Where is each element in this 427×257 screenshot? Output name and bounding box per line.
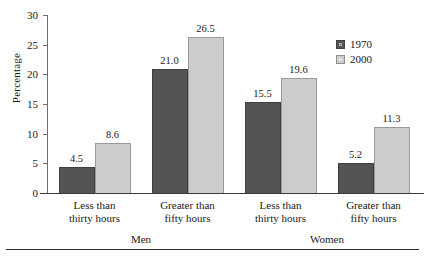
bar-value-label: 21.0 [147,55,193,66]
bar-value-label: 8.6 [90,129,136,140]
bar-value-label: 19.6 [276,64,322,75]
category-label-line: thirty hours [43,212,147,225]
y-axis-tick-label: 5 [10,158,38,168]
dark-gray-swatch-icon [336,40,345,49]
bar-1970-3[interactable] [338,163,374,194]
y-axis-tick-label: 10 [10,129,38,139]
x-axis-category-label: Less thanthirty hours [229,199,333,225]
bar-chart: Percentage 051015202530 Less thanthirty … [0,0,427,257]
x-axis-line [40,193,424,194]
legend-item-label: 2000 [350,54,372,65]
bottom-divider [6,249,419,250]
bar-value-label: 15.5 [240,88,286,99]
category-label-line: Greater than [322,199,426,212]
category-label-line: thirty hours [229,212,333,225]
group-label-men: Men [71,233,211,245]
category-label-line: Less than [43,199,147,212]
bar-value-label: 4.5 [54,153,100,164]
category-label-line: Less than [229,199,333,212]
x-axis-category-label: Greater thanfifty hours [322,199,426,225]
legend-item-label: 1970 [350,39,372,50]
category-label-line: Greater than [136,199,240,212]
y-axis-tick-label: 20 [10,69,38,79]
bar-value-label: 11.3 [369,113,415,124]
y-axis-tick-label: 25 [10,40,38,50]
y-axis-tick-label: 15 [10,99,38,109]
light-gray-swatch-icon [336,55,345,64]
bar-2000-0[interactable] [95,143,131,194]
category-label-line: fifty hours [136,212,240,225]
bar-1970-0[interactable] [59,167,95,194]
x-axis-category-label: Less thanthirty hours [43,199,147,225]
bar-1970-1[interactable] [152,69,188,194]
bar-2000-1[interactable] [188,37,224,194]
bar-2000-2[interactable] [281,78,317,194]
x-axis-category-label: Greater thanfifty hours [136,199,240,225]
y-axis-tick-label: 0 [10,188,38,198]
bar-value-label: 5.2 [333,149,379,160]
bar-value-label: 26.5 [183,23,229,34]
group-label-women: Women [257,233,397,245]
y-axis-tick-label: 30 [10,10,38,20]
legend-item[interactable]: 1970 [336,38,372,51]
legend: 1970 2000 [336,38,372,68]
bar-1970-2[interactable] [245,102,281,194]
legend-item[interactable]: 2000 [336,53,372,66]
category-label-line: fifty hours [322,212,426,225]
bar-2000-3[interactable] [374,127,410,194]
